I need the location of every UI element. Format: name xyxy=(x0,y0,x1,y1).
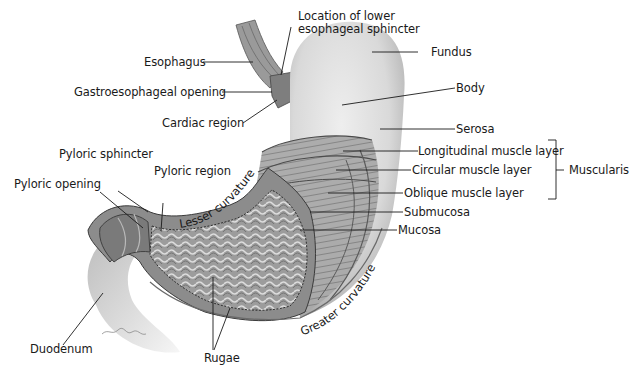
cardiac-region-label: Cardiac region xyxy=(162,117,244,130)
location-les-label-line2: esophageal sphincter xyxy=(298,23,420,36)
pyloric-opening-label: Pyloric opening xyxy=(14,178,101,191)
serosa-label: Serosa xyxy=(456,123,494,136)
muscularis-label: Muscularis xyxy=(569,164,629,177)
rugae-label: Rugae xyxy=(204,352,240,365)
submucosa-label: Submucosa xyxy=(404,206,470,219)
pyloric-region-label: Pyloric region xyxy=(154,165,231,178)
oblique-muscle-layer-label: Oblique muscle layer xyxy=(404,187,524,200)
circular-muscle-layer-label: Circular muscle layer xyxy=(412,164,531,177)
mucosa-label: Mucosa xyxy=(398,224,441,237)
pyloric-sphincter-label: Pyloric sphincter xyxy=(59,148,153,161)
fundus-label: Fundus xyxy=(431,46,472,59)
gastroesophageal-opening-label: Gastroesophageal opening xyxy=(74,86,226,99)
stomach-diagram: Lesser curvature Greater curvature Locat… xyxy=(0,0,639,377)
body-label: Body xyxy=(456,82,485,95)
duodenum-label: Duodenum xyxy=(30,343,93,356)
esophagus-label: Esophagus xyxy=(144,56,206,69)
longitudinal-muscle-layer-label: Longitudinal muscle layer xyxy=(418,145,564,158)
